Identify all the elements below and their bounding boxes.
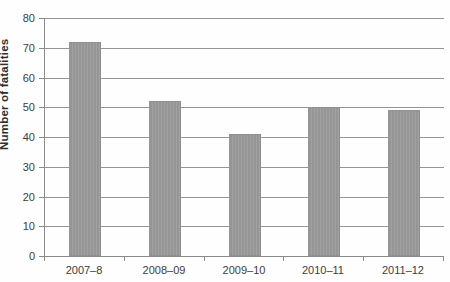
bar-2010–11 — [308, 107, 340, 256]
x-axis-tick — [283, 257, 284, 261]
y-axis-tick — [39, 167, 44, 168]
y-tick-label-40: 40 — [5, 132, 35, 143]
gridline-y-50 — [45, 107, 444, 108]
x-axis-tick — [204, 257, 205, 261]
y-tick-label-80: 80 — [5, 13, 35, 24]
y-tick-label-0: 0 — [5, 251, 35, 262]
y-axis-tick — [39, 226, 44, 227]
fatalities-bar-chart: Number of fatalities 0102030405060708020… — [0, 0, 450, 282]
bar-2007–8 — [69, 42, 101, 256]
y-axis-tick — [39, 107, 44, 108]
x-tick-label-2007–8: 2007–8 — [49, 264, 119, 276]
gridline-y-80 — [45, 18, 444, 19]
y-axis-tick — [39, 78, 44, 79]
x-axis-tick — [443, 257, 444, 261]
bar-2009–10 — [229, 134, 261, 256]
y-tick-label-60: 60 — [5, 73, 35, 84]
y-tick-label-50: 50 — [5, 102, 35, 113]
bar-2011–12 — [388, 110, 420, 256]
x-axis-tick — [363, 257, 364, 261]
bar-2008–09 — [149, 101, 181, 256]
x-tick-label-2011–12: 2011–12 — [368, 264, 438, 276]
y-axis-tick — [39, 197, 44, 198]
y-tick-label-70: 70 — [5, 43, 35, 54]
y-tick-label-10: 10 — [5, 221, 35, 232]
x-tick-label-2008–09: 2008–09 — [129, 264, 199, 276]
y-axis-tick — [39, 137, 44, 138]
gridline-y-70 — [45, 48, 444, 49]
x-axis-tick — [44, 257, 45, 261]
x-tick-label-2010–11: 2010–11 — [288, 264, 358, 276]
x-axis-tick — [124, 257, 125, 261]
plot-area — [44, 18, 444, 257]
y-tick-label-20: 20 — [5, 192, 35, 203]
gridline-y-60 — [45, 78, 444, 79]
x-tick-label-2009–10: 2009–10 — [209, 264, 279, 276]
y-axis-tick — [39, 48, 44, 49]
y-axis-tick — [39, 18, 44, 19]
y-tick-label-30: 30 — [5, 162, 35, 173]
